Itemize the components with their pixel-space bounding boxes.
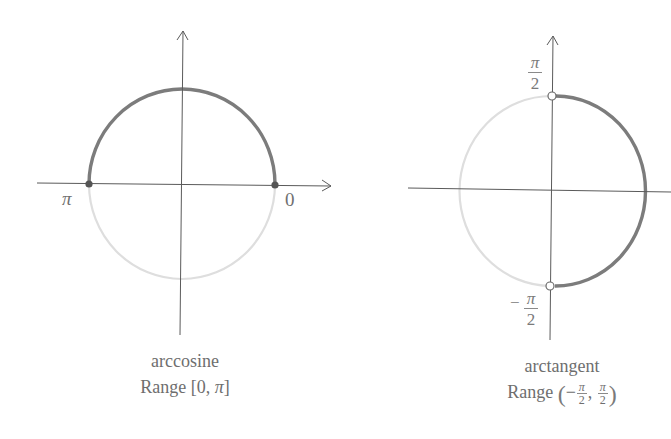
arctangent-range: Range (−π2, π2) xyxy=(472,379,652,407)
frac-numerator: π xyxy=(579,381,585,393)
range-high-frac: π2 xyxy=(598,381,608,406)
arctangent-label-top: π 2 xyxy=(528,54,542,92)
range-low-frac: π2 xyxy=(577,381,587,406)
frac-numerator: π xyxy=(529,54,542,72)
range-low-sign: − xyxy=(566,382,576,402)
arccosine-x-axis xyxy=(37,183,331,186)
range-prefix: Range xyxy=(507,382,553,402)
range-close: ] xyxy=(224,377,230,397)
arctangent-x-axis xyxy=(408,188,671,192)
range-sep: , xyxy=(588,382,593,402)
arccosine-label-pi: π xyxy=(62,188,72,210)
range-close: ) xyxy=(609,381,617,407)
arccosine-endpoint-pi xyxy=(85,180,92,187)
arctangent-title: arctangent xyxy=(472,353,652,379)
arctangent-caption: arctangent Range (−π2, π2) xyxy=(472,353,652,407)
arccosine-faded-arc xyxy=(89,184,275,279)
range-sep: , xyxy=(206,377,211,397)
frac-denominator: 2 xyxy=(600,394,606,406)
arccosine-diagram xyxy=(37,31,331,335)
frac-denominator: 2 xyxy=(527,309,536,328)
arctangent-endpoint-top xyxy=(548,92,556,100)
arccosine-label-zero: 0 xyxy=(285,189,295,211)
range-prefix: Range xyxy=(140,377,186,397)
arccosine-title: arccosine xyxy=(110,348,260,374)
frac-denominator: 2 xyxy=(531,73,540,92)
arccosine-caption: arccosine Range [0, π] xyxy=(110,348,260,400)
frac-denominator: 2 xyxy=(579,394,585,406)
arctangent-endpoint-bottom xyxy=(546,282,554,290)
arctangent-y-axis xyxy=(550,36,553,340)
arctangent-faded-arc xyxy=(459,96,552,286)
arccosine-endpoint-zero xyxy=(271,181,278,188)
arctangent-label-bottom-sign: − xyxy=(510,293,520,313)
arccosine-y-axis xyxy=(180,31,183,335)
range-open: ( xyxy=(558,381,566,407)
arccosine-range: Range [0, π] xyxy=(110,374,260,400)
arctangent-label-bottom: π 2 xyxy=(524,290,538,328)
range-high: π xyxy=(215,377,224,397)
frac-numerator: π xyxy=(525,290,538,308)
frac-numerator: π xyxy=(600,381,606,393)
range-low: 0 xyxy=(197,377,206,397)
